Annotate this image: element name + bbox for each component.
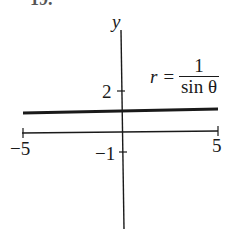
equation-fraction: 1 sin θ <box>179 56 219 98</box>
y-tick-label-2: 2 <box>102 82 112 101</box>
equation-label: r = 1 sin θ <box>150 56 219 98</box>
fraction-denominator: sin θ <box>179 77 219 98</box>
x-tick-label-max: 5 <box>212 136 222 155</box>
polar-graph <box>0 0 229 229</box>
y-axis <box>121 30 124 229</box>
equation-lhs: r = <box>150 66 175 88</box>
y-axis-label: y <box>112 12 120 31</box>
curve-r-equals-1-over-sin-theta <box>23 109 218 113</box>
fraction-numerator: 1 <box>192 56 206 76</box>
x-axis <box>22 131 218 133</box>
x-tick-label-min: −5 <box>10 139 30 158</box>
y-tick-label-neg1: −1 <box>95 144 115 163</box>
